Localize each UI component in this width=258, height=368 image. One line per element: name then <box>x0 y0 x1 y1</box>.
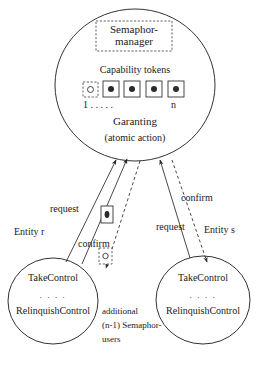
capability-token-box-1 <box>83 82 98 97</box>
caption-line1: additional <box>102 306 138 316</box>
capability-token-dot-4 <box>151 86 157 92</box>
capability-token-dot-5 <box>173 86 179 92</box>
entity-s-name: Entity s <box>204 224 235 235</box>
manager-title: Semaphor- manager <box>96 23 172 48</box>
granting-action-line2: (atomic action) <box>85 132 185 143</box>
manager-title-line1: Semaphor- <box>96 23 172 35</box>
granting-action-line1: Garanting <box>85 115 185 127</box>
caption-line2: (n-1) Semaphor- <box>102 320 162 330</box>
entity-s-op-dots: . . . . <box>158 290 248 300</box>
returned-token-box <box>99 248 112 264</box>
edge-label-left-request: request <box>50 203 79 214</box>
entity-r-op-dots: . . . . <box>8 290 98 300</box>
entity-r-op-bottom: RelinquishControl <box>2 305 104 316</box>
entity-r-circle <box>8 258 98 344</box>
edge-right-confirm <box>172 160 207 262</box>
manager-title-line2: manager <box>96 35 172 47</box>
capability-token-dot-2 <box>108 86 114 92</box>
entity-s-op-bottom: RelinquishControl <box>152 305 254 316</box>
edge-label-right-confirm: confirm <box>181 192 213 203</box>
entity-r-name: Entity r <box>14 226 44 237</box>
entity-s-op-top: TakeControl <box>158 272 248 283</box>
capability-token-dot-3 <box>129 86 135 92</box>
edge-right-request <box>160 160 190 258</box>
granted-token-dot <box>105 211 110 218</box>
semaphore-diagram: Semaphor- manager Capability tokens 1 . … <box>0 0 258 368</box>
capability-tokens-label: Capability tokens <box>75 64 195 75</box>
edge-label-right-request: request <box>156 221 185 232</box>
token-index-last: n <box>171 99 176 110</box>
entity-r-op-top: TakeControl <box>8 272 98 283</box>
caption-line3: users <box>102 334 121 344</box>
edge-label-left-confirm: confirm <box>78 238 110 249</box>
token-index-first: 1 . . . . . <box>83 99 113 110</box>
